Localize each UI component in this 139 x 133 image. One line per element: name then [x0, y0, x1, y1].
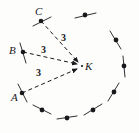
- length-label-bk: 3: [41, 45, 46, 55]
- center-dot-k: [81, 65, 83, 67]
- length-label-ak: 3: [36, 68, 41, 78]
- radius-line-ak: [22, 69, 77, 93]
- radius-lines-group: [22, 21, 78, 93]
- length-label-ck: 3: [61, 33, 66, 43]
- point-label-a: A: [11, 92, 18, 103]
- point-dot-a: [20, 91, 25, 96]
- point-dot-dot-bottom: [65, 116, 70, 121]
- point-dot-dot-top: [83, 13, 88, 18]
- radius-line-bk: [23, 52, 77, 64]
- point-dot-b: [21, 50, 26, 55]
- center-point-group: [81, 65, 83, 67]
- point-dot-dot-upper-right: [114, 38, 119, 43]
- point-dot-c: [39, 19, 44, 24]
- point-label-b: B: [9, 45, 16, 56]
- point-dot-dot-lower-right: [112, 90, 117, 95]
- point-dot-dot-right: [122, 64, 127, 69]
- point-tick-marks-group: [18, 13, 125, 119]
- geometry-figure: C B A K 3 3 3: [0, 0, 139, 133]
- point-dot-dot-bottom-right: [91, 108, 96, 113]
- figure-canvas: [0, 0, 139, 133]
- point-dot-dot-bottom-left: [40, 108, 45, 113]
- point-label-k: K: [85, 61, 92, 72]
- radius-line-ck: [41, 21, 78, 62]
- point-label-c: C: [35, 6, 42, 17]
